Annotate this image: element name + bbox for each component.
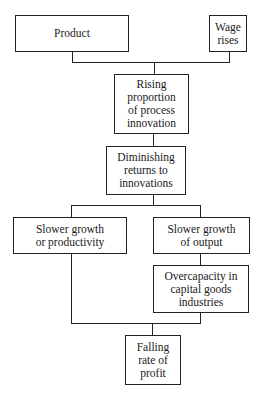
- connector-branch: [71, 205, 201, 206]
- node-overcapacity: Overcapacity in capital goods industries: [153, 265, 249, 313]
- node-falling-profit: Falling rate of profit: [125, 335, 181, 385]
- connector-to-falling: [152, 323, 153, 335]
- node-diminishing-returns: Diminishing returns to innovations: [106, 146, 186, 195]
- connector-to-slower-output: [200, 205, 201, 217]
- connector-top-join: [72, 62, 230, 63]
- connector-bottom-join: [71, 323, 201, 324]
- node-wage-rises: Wage rises: [209, 15, 247, 52]
- connector-to-slower-prod: [71, 205, 72, 217]
- connector-output-to-overcapacity: [200, 253, 201, 265]
- node-rising-proportion: Rising proportion of process innovation: [114, 74, 189, 134]
- connector-rising-to-diminishing: [153, 133, 154, 146]
- connector-to-rising: [154, 62, 155, 74]
- connector-slower-prod-down: [71, 253, 72, 324]
- node-slower-productivity: Slower growth or productivity: [13, 217, 127, 254]
- node-slower-output: Slower growth of output: [153, 217, 250, 254]
- node-product: Product: [15, 15, 129, 52]
